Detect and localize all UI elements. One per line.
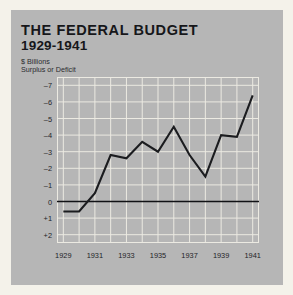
y-axis-tick-label: +1 — [30, 214, 52, 223]
y-axis-tick-label: –5 — [30, 114, 52, 123]
y-axis-tick-label: –6 — [30, 97, 52, 106]
y-axis-tick-label: +2 — [30, 230, 52, 239]
line-chart-svg — [57, 77, 259, 243]
chart-card: THE FEDERAL BUDGET 1929-1941 $ Billions … — [0, 0, 293, 295]
x-axis-tick-label: 1931 — [78, 251, 112, 260]
y-axis-tick-label: 0 — [30, 197, 52, 206]
x-axis-tick-label: 1929 — [46, 251, 80, 260]
page-title-years: 1929-1941 — [21, 38, 87, 53]
y-axis-tick-label: –3 — [30, 147, 52, 156]
x-axis-tick-label: 1941 — [236, 251, 270, 260]
page-title: THE FEDERAL BUDGET — [21, 22, 198, 38]
x-axis-tick-label: 1939 — [204, 251, 238, 260]
y-axis-tick-label: –4 — [30, 131, 52, 140]
x-axis-tick-label: 1935 — [141, 251, 175, 260]
y-axis-tick-label: –7 — [30, 81, 52, 90]
y-axis-tick-label: –1 — [30, 180, 52, 189]
plot-area — [57, 77, 259, 243]
chart-series-label: Surplus or Deficit — [21, 65, 76, 74]
x-axis-tick-label: 1933 — [109, 251, 143, 260]
y-axis-tick-label: –2 — [30, 164, 52, 173]
x-axis-tick-label: 1937 — [173, 251, 207, 260]
